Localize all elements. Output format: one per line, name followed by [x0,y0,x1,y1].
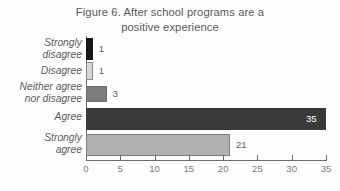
bar [86,134,230,156]
bar-row: Strongly agree21 [0,132,340,156]
category-label: Strongly agree [0,132,82,155]
x-axis-tick [326,155,327,161]
x-axis-tick-label: 5 [108,164,132,174]
x-axis-tick [257,155,258,161]
x-axis-tick [86,155,87,161]
category-label: Neither agree nor disagree [0,81,82,104]
bar-row: Strongly disagree1 [0,38,340,60]
x-axis-tick-label: 35 [314,164,338,174]
x-axis-tick-label: 25 [245,164,269,174]
x-axis-tick-label: 20 [211,164,235,174]
bar-track: 21 [86,134,326,156]
category-label: Strongly disagree [0,37,82,60]
bar [86,108,326,130]
bar-track: 3 [86,86,326,102]
x-axis-tick [155,155,156,161]
x-axis-tick-label: 10 [143,164,167,174]
x-axis-line [86,160,326,161]
bar-row: Disagree1 [0,62,340,80]
x-axis-tick [223,155,224,161]
bar-row: Neither agree nor disagree3 [0,84,340,102]
bar-value-label: 3 [113,89,118,99]
bar [86,86,107,102]
bar-track: 1 [86,62,326,80]
bar-value-label: 35 [306,114,317,124]
x-axis-tick-label: 30 [280,164,304,174]
x-axis-tick [120,155,121,161]
bar-row: Agree35 [0,106,340,128]
x-axis-tick [189,155,190,161]
bar-value-label: 1 [99,44,104,54]
x-axis-tick-label: 15 [177,164,201,174]
category-label: Disagree [0,65,82,77]
bar [86,62,93,80]
x-axis-tick-label: 0 [74,164,98,174]
bar [86,38,93,60]
bar-value-label: 1 [99,66,104,76]
bar-track: 1 [86,38,326,60]
x-axis-tick [292,155,293,161]
bar-value-label: 21 [236,140,247,150]
figure-container: Figure 6. After school programs are a po… [0,0,340,191]
category-label: Agree [0,111,82,123]
bar-track: 35 [86,108,326,130]
figure-title: Figure 6. After school programs are a po… [0,5,340,35]
bar-chart-plot-area: Strongly disagree1Disagree1Neither agree… [0,36,340,191]
